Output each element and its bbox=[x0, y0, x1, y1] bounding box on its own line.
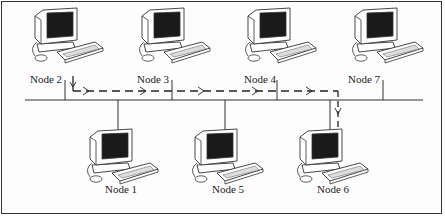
computer-icon bbox=[245, 8, 316, 63]
computer-icon bbox=[297, 129, 368, 184]
message-path bbox=[70, 76, 341, 130]
computer-icon bbox=[87, 129, 158, 184]
node-label: Node 1 bbox=[105, 183, 137, 195]
node-label: Node 6 bbox=[317, 183, 350, 195]
computer-icon bbox=[139, 8, 210, 63]
node-label: Node 5 bbox=[212, 183, 245, 195]
computer-icon bbox=[352, 8, 423, 63]
computer-icon bbox=[32, 8, 103, 63]
node-label: Node 3 bbox=[137, 73, 170, 85]
node-label: Node 7 bbox=[348, 73, 381, 85]
node-label: Node 4 bbox=[244, 73, 277, 85]
computer-icon bbox=[192, 129, 263, 184]
node-label: Node 2 bbox=[30, 73, 62, 85]
network-diagram: Node 2 Node 3 Node 4 Node 7 Node 1 Node … bbox=[0, 0, 445, 217]
